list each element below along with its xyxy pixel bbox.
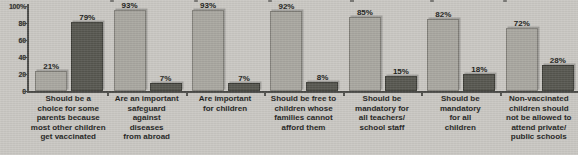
bar-value-label: 79% <box>72 13 102 22</box>
category-label-line: safeguard <box>107 104 185 114</box>
category-label-line: Are important <box>186 94 264 104</box>
bar-value-label: 8% <box>307 73 337 82</box>
category-labels: Should be achoice for someparents becaus… <box>0 94 578 155</box>
category-label: Are importantfor children <box>186 94 264 113</box>
bar-value-label: 72% <box>507 19 537 28</box>
category-label-line: Should be free to <box>264 94 342 104</box>
bar-dark[interactable]: 79% <box>71 22 103 91</box>
bar-dark[interactable]: 28% <box>542 65 574 91</box>
category-label-line: Should be <box>421 94 499 104</box>
category-label-line: Non-vaccinated <box>500 94 578 104</box>
bar-group: 92%8% <box>264 4 342 93</box>
bar-group: 93%7% <box>107 4 185 93</box>
bar-light[interactable]: 82% <box>427 19 459 91</box>
category-label-line: against <box>107 113 185 123</box>
category-label-line: for children <box>186 104 264 114</box>
bar-value-label: 7% <box>229 74 259 83</box>
y-axis-tick-mark <box>23 40 29 41</box>
category-label-line: from abroad <box>107 132 185 142</box>
bar-dark[interactable]: 7% <box>228 83 260 91</box>
category-label-line: mandatory <box>421 104 499 114</box>
bar-value-label: 82% <box>428 10 458 19</box>
category-label: Are an importantsafeguardagainstdiseases… <box>107 94 185 142</box>
category-label-line: Should be <box>343 94 421 104</box>
bar-light[interactable]: 92% <box>270 11 302 91</box>
y-axis: 100%806040200 <box>0 4 26 93</box>
category-label-line: most other children <box>29 123 107 133</box>
category-label-line: parents because <box>29 113 107 123</box>
category-label-line: diseases <box>107 123 185 133</box>
bar-series-container: 21%79%93%7%93%7%92%8%85%15%82%18%72%28% <box>29 4 578 93</box>
bar-value-label: 85% <box>350 8 380 17</box>
category-label-line: for all <box>421 113 499 123</box>
category-label-line: children <box>421 123 499 133</box>
bar-value-label: 18% <box>464 65 494 74</box>
bar-dark[interactable]: 18% <box>463 74 495 91</box>
category-label: Should bemandatory forall teachers/schoo… <box>343 94 421 132</box>
bar-group: 21%79% <box>29 4 107 93</box>
category-label-line: all teachers/ <box>343 113 421 123</box>
cropped-text-remnant <box>0 0 578 4</box>
bar-light[interactable]: 85% <box>349 17 381 91</box>
bar-group: 72%28% <box>500 4 578 93</box>
bar-light[interactable]: 93% <box>192 10 224 91</box>
category-label-line: school staff <box>343 123 421 133</box>
y-axis-tick-mark <box>23 91 29 92</box>
bar-group: 93%7% <box>186 4 264 93</box>
bar-value-label: 15% <box>386 67 416 76</box>
bar-light[interactable]: 72% <box>506 28 538 91</box>
category-label: Should be achoice for someparents becaus… <box>29 94 107 142</box>
category-label: Non-vaccinatedchildren shouldnot be allo… <box>500 94 578 142</box>
category-label-line: children should <box>500 104 578 114</box>
bar-value-label: 28% <box>543 56 573 65</box>
category-label-line: mandatory for <box>343 104 421 114</box>
bar-group: 82%18% <box>421 4 499 93</box>
y-axis-tick-mark <box>23 6 29 7</box>
bar-group: 85%15% <box>343 4 421 93</box>
category-label-line: children whose <box>264 104 342 114</box>
category-label-line: not be allowed to <box>500 113 578 123</box>
category-label-line: get vaccinated <box>29 132 107 142</box>
category-label-line: families cannot <box>264 113 342 123</box>
bar-light[interactable]: 93% <box>114 10 146 91</box>
bar-value-label: 21% <box>36 62 66 71</box>
category-label-line: public schools <box>500 132 578 142</box>
bar-light[interactable]: 21% <box>35 71 67 91</box>
category-label-line: afford them <box>264 123 342 133</box>
category-label: Should be free tochildren whosefamilies … <box>264 94 342 132</box>
y-axis-tick-mark <box>23 74 29 75</box>
y-axis-tick-mark <box>23 23 29 24</box>
category-label-line: attend private/ <box>500 123 578 133</box>
plot-area: 100%806040200 21%79%93%7%93%7%92%8%85%15… <box>0 4 578 93</box>
category-label-line: Should be a <box>29 94 107 104</box>
bar-value-label: 7% <box>151 74 181 83</box>
bar-dark[interactable]: 8% <box>306 82 338 91</box>
y-axis-tick-mark <box>23 57 29 58</box>
chart-image: 100%806040200 21%79%93%7%93%7%92%8%85%15… <box>0 0 578 155</box>
category-label-line: Are an important <box>107 94 185 104</box>
category-label: Should bemandatoryfor allchildren <box>421 94 499 132</box>
bar-dark[interactable]: 7% <box>150 83 182 91</box>
bar-dark[interactable]: 15% <box>385 76 417 91</box>
category-label-line: choice for some <box>29 104 107 114</box>
